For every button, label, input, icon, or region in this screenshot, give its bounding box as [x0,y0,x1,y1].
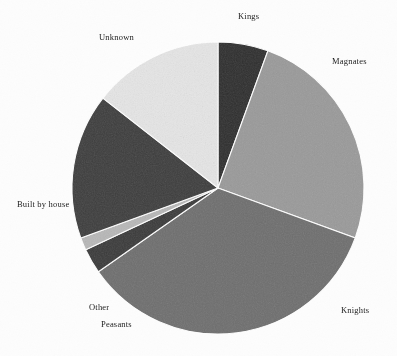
pie-label-magnates: Magnates [332,57,367,66]
pie-label-peasants: Peasants [101,320,132,329]
pie-label-knights: Knights [341,306,369,315]
pie-slices-grain [72,42,364,334]
pie-label-unknown: Unknown [99,33,134,42]
pie-label-built-by-house: Built by house [17,200,69,209]
pie-chart-figure: Kings Magnates Knights Peasants Other Bu… [0,0,397,356]
pie-label-kings: Kings [238,12,259,21]
pie-chart-canvas [0,0,397,356]
pie-label-other: Other [89,303,109,312]
